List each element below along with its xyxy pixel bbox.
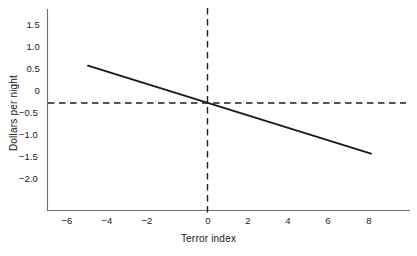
x-tick-label: −2 xyxy=(135,216,159,226)
x-tick-label: 4 xyxy=(276,216,300,226)
y-tick-label: 1.5 xyxy=(14,20,40,30)
x-tick-label: 8 xyxy=(357,216,381,226)
x-tick-label: 2 xyxy=(236,216,260,226)
regression-line xyxy=(88,66,371,154)
y-axis-title-wrapper: Dollars per night xyxy=(3,48,21,178)
x-axis-title: Terror index xyxy=(0,233,417,244)
x-tick-label: 0 xyxy=(196,216,220,226)
x-tick-label: −4 xyxy=(95,216,119,226)
x-tick-label: −6 xyxy=(55,216,79,226)
y-axis-title: Dollars per night xyxy=(8,75,19,151)
chart-figure: 1.5 1.0 0.5 0 −0.5 −1.0 −1.5 −2.0 −6 −4 … xyxy=(0,0,417,256)
x-tick-label: 6 xyxy=(316,216,340,226)
